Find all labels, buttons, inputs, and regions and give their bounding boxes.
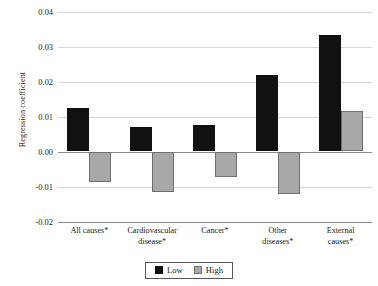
y-axis-tick-label: 0.03 — [38, 42, 53, 51]
bar-high — [89, 152, 111, 182]
y-axis-tick-label: 0.04 — [38, 7, 53, 16]
x-axis-category-label: All causes* — [58, 225, 121, 236]
bar-high — [341, 111, 363, 152]
legend-swatch-low-icon — [155, 266, 163, 274]
y-axis-tick-label: -0.02 — [36, 217, 53, 226]
plot-area: 0.040.030.020.010.00-0.01-0.02 — [58, 12, 372, 222]
bar-low — [67, 108, 89, 151]
y-axis-title: Regression coefficient — [18, 40, 27, 180]
gridline: -0.01 — [58, 187, 372, 188]
y-axis-tick-label: -0.01 — [36, 182, 53, 191]
bar-high — [152, 152, 174, 193]
y-axis-tick-label: 0.02 — [38, 77, 53, 86]
y-axis-tick-label: 0.01 — [38, 112, 53, 121]
bar-low — [130, 127, 152, 151]
gridline: 0.04 — [58, 12, 372, 13]
legend-entry-high: High — [194, 265, 223, 275]
bar-low — [193, 125, 215, 152]
y-axis-tick-label: 0.00 — [38, 147, 53, 156]
chart-legend: Low High — [145, 262, 233, 279]
bar-low — [319, 35, 341, 152]
legend-label-low: Low — [167, 265, 183, 275]
x-axis-category-label: Cardiovasculardisease* — [121, 225, 184, 247]
bar-high — [215, 152, 237, 178]
x-axis-category-label: Externalcauses* — [309, 225, 372, 247]
x-axis-category-label: Otherdiseases* — [246, 225, 309, 247]
bar-high — [278, 152, 300, 194]
x-axis-category-label: Cancer* — [184, 225, 247, 236]
gridline: -0.02 — [58, 222, 372, 223]
legend-label-high: High — [206, 265, 223, 275]
legend-swatch-high-icon — [194, 266, 202, 274]
legend-entry-low: Low — [155, 265, 183, 275]
bar-low — [256, 75, 278, 151]
regression-coefficient-bar-chart: Regression coefficient 0.040.030.020.010… — [0, 0, 378, 286]
